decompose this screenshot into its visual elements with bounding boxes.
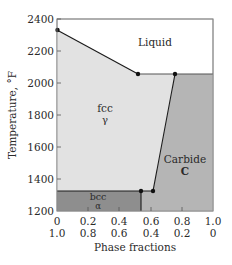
- svg-text:1800: 1800: [27, 109, 54, 121]
- svg-text:0.6: 0.6: [143, 215, 160, 227]
- label-gamma: γ: [102, 114, 108, 125]
- svg-text:1200: 1200: [27, 205, 54, 217]
- svg-text:0: 0: [210, 227, 217, 239]
- svg-text:0.8: 0.8: [174, 215, 191, 227]
- x-axis-title: Phase fractions: [94, 241, 176, 253]
- svg-text:2400: 2400: [27, 13, 54, 25]
- svg-text:0.2: 0.2: [80, 215, 97, 227]
- label-alpha: α: [95, 201, 101, 211]
- svg-text:1600: 1600: [27, 141, 54, 153]
- y-axis-title: Temperature, °F: [6, 71, 18, 159]
- svg-text:0.4: 0.4: [143, 227, 160, 239]
- phase-diagram-chart: 2400 2200 2000 1800 1600 1400 1200 0 0.2…: [0, 0, 232, 265]
- svg-text:0.8: 0.8: [80, 227, 97, 239]
- label-fcc: fcc: [97, 102, 113, 114]
- x-tick-labels-top: 0 0.2 0.4 0.6 0.8 1.0: [54, 215, 222, 227]
- svg-text:2000: 2000: [27, 77, 54, 89]
- svg-text:0.2: 0.2: [174, 227, 191, 239]
- svg-text:0.6: 0.6: [111, 227, 128, 239]
- x-tick-labels-bottom: 1.0 0.8 0.6 0.4 0.2 0: [49, 227, 217, 239]
- svg-text:2200: 2200: [27, 45, 54, 57]
- label-carbide: Carbide: [164, 153, 206, 165]
- svg-text:1.0: 1.0: [205, 215, 222, 227]
- svg-text:1400: 1400: [27, 173, 54, 185]
- svg-text:1.0: 1.0: [49, 227, 66, 239]
- label-carbide-symbol: C: [181, 165, 189, 177]
- label-liquid: Liquid: [138, 36, 172, 48]
- svg-text:0: 0: [54, 215, 61, 227]
- y-tick-labels: 2400 2200 2000 1800 1600 1400 1200: [27, 13, 54, 217]
- svg-text:0.4: 0.4: [111, 215, 128, 227]
